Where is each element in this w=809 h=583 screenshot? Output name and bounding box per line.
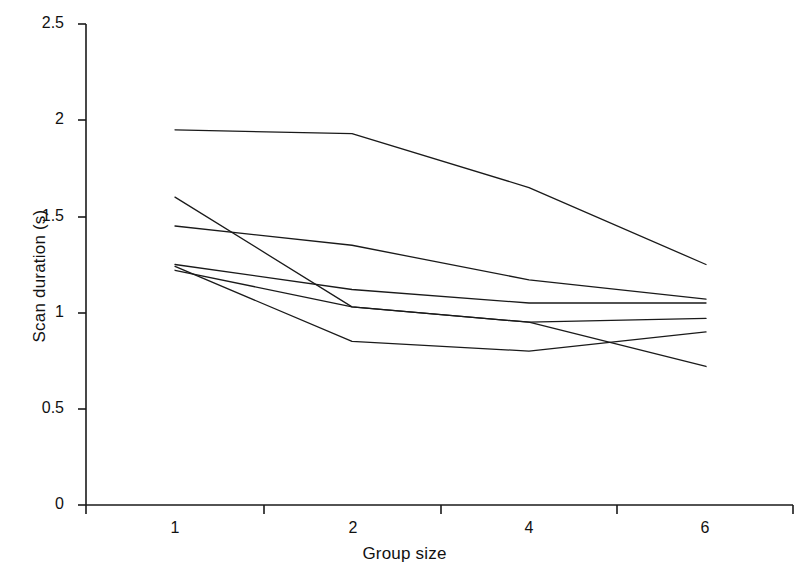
data-line-3 [175,265,706,303]
x-tick-label-2: 2 [333,519,373,537]
data-series-group [175,130,706,367]
axes-group [86,24,793,505]
y-tick-label-0: 0 [8,495,64,513]
data-line-5 [175,266,706,351]
x-tick-label-1: 1 [155,519,195,537]
y-tick-label-2: 2 [8,110,64,128]
y-axis-ticks [78,24,86,505]
y-axis-title: Scan duration (s) [30,146,50,406]
x-axis-title: Group size [0,544,809,564]
line-chart-canvas [0,0,809,583]
x-tick-label-6: 6 [685,519,725,537]
y-tick-label-2-5: 2.5 [8,14,64,32]
x-axis-ticks [86,505,793,514]
chart-figure: 2.5 2 1.5 1 0.5 0 1 2 4 6 Group size Sca… [0,0,809,583]
data-line-1 [175,130,706,265]
x-tick-label-4: 4 [509,519,549,537]
data-line-2 [175,226,706,299]
